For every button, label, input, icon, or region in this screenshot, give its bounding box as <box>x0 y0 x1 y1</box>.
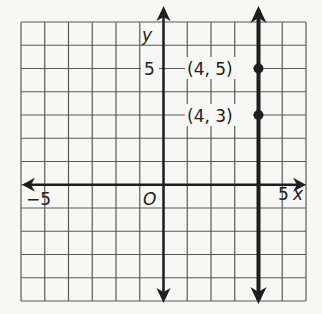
point-label-4-3: (4, 3) <box>187 106 233 126</box>
point-label-4-5: (4, 5) <box>187 59 233 79</box>
x-axis-label: x <box>292 184 304 204</box>
x-tick-label-5: 5 <box>278 184 289 204</box>
coordinate-plane: y x O −5 5 5 (4, 5) (4, 3) <box>0 0 322 314</box>
vertical-line-x-4 <box>251 6 267 304</box>
x-tick-label-neg5: −5 <box>26 189 51 209</box>
origin-label: O <box>143 189 156 209</box>
data-point <box>254 64 264 74</box>
axes <box>22 6 306 303</box>
y-axis-label: y <box>141 25 153 45</box>
data-point <box>254 110 264 120</box>
y-tick-label-5: 5 <box>144 59 155 79</box>
